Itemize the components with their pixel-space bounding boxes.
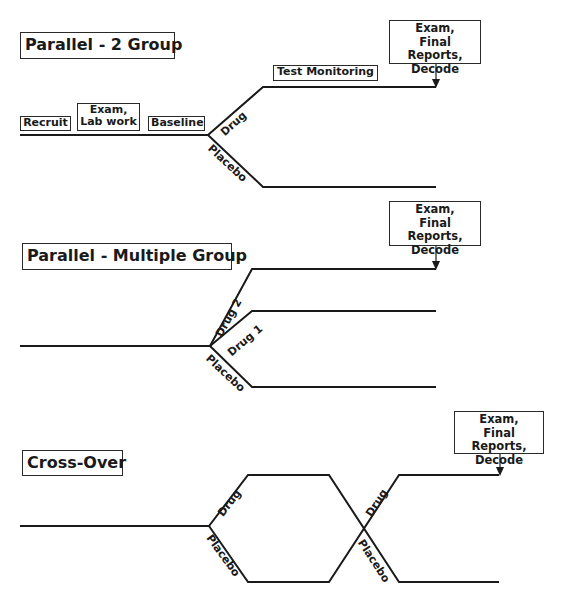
section-title-cross-over: Cross-Over bbox=[22, 450, 123, 476]
trial-design-diagram bbox=[0, 0, 562, 601]
end-box-line: Final Reports, bbox=[392, 217, 478, 244]
end-box-line: Final Reports, bbox=[457, 427, 541, 454]
test-monitoring-box: Test Monitoring bbox=[273, 65, 378, 81]
end-box-line: Exam, bbox=[457, 413, 541, 427]
phase-lab-work-label: Lab work bbox=[80, 116, 137, 128]
end-box-line: Exam, bbox=[392, 22, 478, 36]
end-box-final-reports: Exam, Final Reports, Decode bbox=[389, 201, 481, 246]
end-box-line: Final Reports, bbox=[392, 36, 478, 63]
end-box-line: Decode bbox=[457, 454, 541, 468]
end-box-final-reports: Exam, Final Reports, Decode bbox=[454, 411, 544, 454]
crossover-upper-path bbox=[209, 475, 499, 582]
crossover-lower-path bbox=[209, 475, 499, 582]
end-box-line: Decode bbox=[392, 63, 478, 77]
section-title-parallel-multiple-group: Parallel - Multiple Group bbox=[22, 243, 232, 270]
phase-recruit: Recruit bbox=[20, 116, 71, 131]
section-title-parallel-2-group: Parallel - 2 Group bbox=[20, 32, 175, 59]
end-box-line: Decode bbox=[392, 244, 478, 258]
end-box-line: Exam, bbox=[392, 203, 478, 217]
phase-baseline: Baseline bbox=[148, 116, 205, 131]
phase-exam-lab-work: Exam, Lab work bbox=[77, 103, 140, 131]
end-box-final-reports: Exam, Final Reports, Decode bbox=[389, 20, 481, 64]
